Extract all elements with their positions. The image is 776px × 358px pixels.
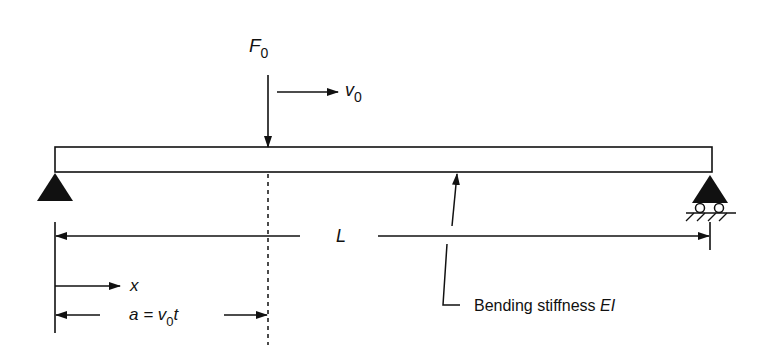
stiffness-leader: Bending stiffness EI: [443, 174, 616, 314]
roller-support-right: [686, 175, 736, 221]
load-position-label: a = v0t: [129, 305, 180, 329]
coordinate-x-arrow: x: [55, 276, 139, 295]
beam-diagram: F0 v0 L x a = v0t Bending stiffness EI: [0, 0, 776, 358]
diagram-svg: F0 v0 L x a = v0t Bending stiffness EI: [0, 0, 776, 358]
stiffness-label: Bending stiffness EI: [474, 297, 616, 314]
coordinate-x-label: x: [129, 276, 139, 295]
pinned-support-left: [37, 173, 73, 201]
span-label: L: [336, 226, 346, 246]
load-label: F0: [249, 35, 269, 61]
beam: [55, 147, 712, 172]
load-position-dimension: a = v0t: [56, 305, 267, 329]
load-force: F0: [249, 35, 269, 147]
velocity-arrow: v0: [277, 80, 362, 105]
velocity-label: v0: [345, 80, 362, 105]
span-dimension: L: [56, 226, 709, 246]
